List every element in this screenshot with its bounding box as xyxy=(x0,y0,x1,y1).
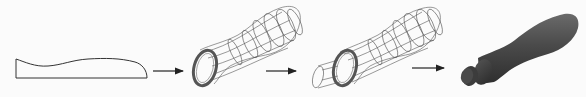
revolve-process-diagram xyxy=(0,0,586,97)
wireframe-with-shaft xyxy=(310,7,445,89)
shaded-solid xyxy=(459,14,578,88)
wireframe-revolve xyxy=(190,6,306,88)
profile-sketch xyxy=(16,58,147,78)
